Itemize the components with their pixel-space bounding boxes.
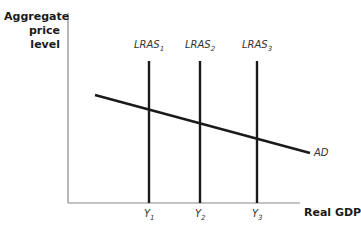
y2-tick-label: Y2 bbox=[195, 208, 206, 222]
y-axis-label: Aggregate price level bbox=[4, 10, 60, 52]
lras-3-label: LRAS3 bbox=[242, 39, 272, 53]
x-axis-label: Real GDP bbox=[304, 206, 361, 219]
lras-2-label: LRAS2 bbox=[185, 39, 215, 53]
ad-curve bbox=[95, 95, 310, 153]
y3-tick-label: Y3 bbox=[252, 208, 263, 222]
lras-1-label: LRAS1 bbox=[134, 39, 164, 53]
ad-label: AD bbox=[314, 147, 329, 158]
y1-tick-label: Y1 bbox=[144, 208, 155, 222]
